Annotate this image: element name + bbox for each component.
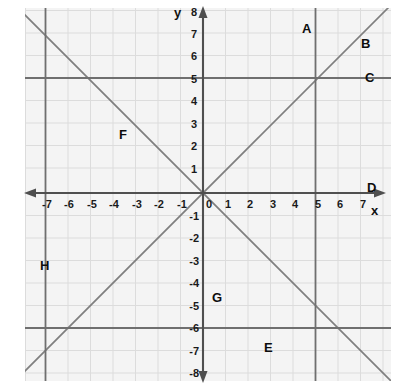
x-axis-label: x xyxy=(371,204,378,217)
x-tick-label: -4 xyxy=(109,199,119,210)
x-tick-label-origin: 0 xyxy=(206,199,212,210)
y-tick-label: 4 xyxy=(191,96,197,107)
x-tick-label: -7 xyxy=(42,199,52,210)
x-tick-label: 6 xyxy=(337,199,343,210)
coordinate-plane-figure: -7 -6 -5 -4 -3 -2 -1 0 1 2 3 4 5 6 7 8 7… xyxy=(0,0,404,391)
x-tick-label: -6 xyxy=(64,199,74,210)
y-tick-label: 8 xyxy=(191,7,197,18)
y-tick-label: -3 xyxy=(189,256,199,267)
region-label-e: E xyxy=(264,341,273,354)
y-tick-label: -5 xyxy=(189,301,199,312)
y-tick-label: 1 xyxy=(191,164,197,175)
x-tick-label: 4 xyxy=(292,199,298,210)
region-label-g: G xyxy=(212,291,222,304)
y-tick-label: -2 xyxy=(189,233,199,244)
y-tick-label: -6 xyxy=(189,323,199,334)
region-label-d: D xyxy=(367,181,376,194)
x-tick-label: 1 xyxy=(225,199,231,210)
graph-canvas xyxy=(0,0,404,391)
region-label-b: B xyxy=(361,37,370,50)
y-tick-label: 5 xyxy=(191,74,197,85)
x-tick-label: -3 xyxy=(132,199,142,210)
region-label-h: H xyxy=(40,259,49,272)
region-label-f: F xyxy=(119,128,127,141)
y-tick-label: 3 xyxy=(191,119,197,130)
x-tick-label: -1 xyxy=(177,199,187,210)
y-tick-label: 6 xyxy=(191,51,197,62)
region-label-c: C xyxy=(365,71,374,84)
x-tick-label: 2 xyxy=(247,199,253,210)
x-tick-label: 7 xyxy=(360,199,366,210)
x-tick-label: 3 xyxy=(270,199,276,210)
y-tick-label: 7 xyxy=(191,29,197,40)
x-tick-label: 5 xyxy=(315,199,321,210)
y-tick-label: 2 xyxy=(191,141,197,152)
y-axis-label: y xyxy=(174,6,181,19)
x-tick-label: -2 xyxy=(154,199,164,210)
x-tick-label: -5 xyxy=(87,199,97,210)
y-tick-label: -7 xyxy=(189,346,199,357)
y-tick-label: -8 xyxy=(189,368,199,379)
y-tick-label: -1 xyxy=(189,211,199,222)
y-tick-label: -4 xyxy=(189,278,199,289)
region-label-a: A xyxy=(302,22,311,35)
